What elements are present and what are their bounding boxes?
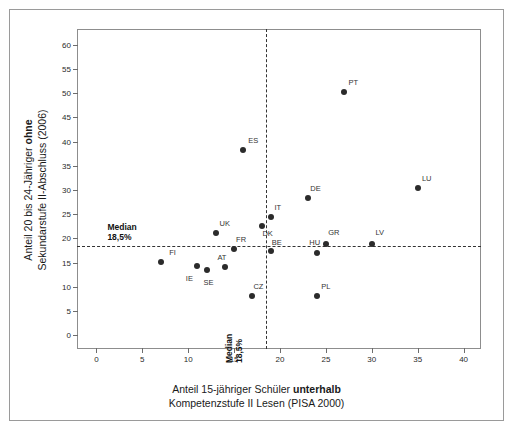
y-axis-tick bbox=[73, 93, 78, 94]
data-point[interactable] bbox=[231, 246, 237, 252]
y-axis-tick bbox=[73, 142, 78, 143]
x-axis-tick-label: 40 bbox=[459, 355, 468, 364]
y-axis-tick-label: 55 bbox=[62, 64, 71, 73]
data-point[interactable] bbox=[305, 195, 311, 201]
data-point-label: IE bbox=[186, 274, 193, 283]
y-axis-tick bbox=[73, 45, 78, 46]
median-label-h-line1: Median bbox=[107, 222, 136, 232]
y-axis-tick bbox=[73, 190, 78, 191]
data-point[interactable] bbox=[314, 293, 320, 299]
x-axis-title-line1-emphasis: unterhalb bbox=[293, 383, 341, 395]
median-label-vertical: Median18,5% bbox=[224, 333, 244, 362]
x-axis-tick bbox=[418, 348, 419, 353]
x-axis-tick-label: 30 bbox=[367, 355, 376, 364]
y-axis-tick bbox=[73, 166, 78, 167]
y-axis-tick-label: 45 bbox=[62, 113, 71, 122]
data-point-label: LU bbox=[422, 174, 432, 183]
x-axis-tick bbox=[464, 348, 465, 353]
data-point-label: DE bbox=[310, 184, 320, 193]
y-axis-tick bbox=[73, 335, 78, 336]
median-label-h-line2: 18,5% bbox=[107, 232, 131, 242]
y-axis-tick-label: 0 bbox=[67, 331, 71, 340]
data-point[interactable] bbox=[222, 264, 228, 270]
data-point[interactable] bbox=[415, 185, 421, 191]
y-axis-title-line2: Sekundarstufe II-Abschluss (2006) bbox=[36, 109, 48, 270]
x-axis-tick-label: 20 bbox=[276, 355, 285, 364]
median-line-vertical bbox=[266, 29, 267, 349]
data-point[interactable] bbox=[268, 248, 274, 254]
x-axis-title-line1: Anteil 15-jähriger Schüler unterhalb bbox=[172, 383, 341, 395]
data-point[interactable] bbox=[194, 263, 200, 269]
data-point[interactable] bbox=[204, 267, 210, 273]
data-point-label: FR bbox=[236, 235, 246, 244]
y-axis-tick-label: 10 bbox=[62, 282, 71, 291]
data-point-label: LV bbox=[376, 228, 385, 237]
data-point[interactable] bbox=[369, 241, 375, 247]
y-axis-tick-label: 50 bbox=[62, 89, 71, 98]
y-axis-tick bbox=[73, 214, 78, 215]
y-axis-tick-label: 30 bbox=[62, 186, 71, 195]
data-point-label: PL bbox=[321, 282, 330, 291]
data-point[interactable] bbox=[341, 89, 347, 95]
y-axis-tick-label: 20 bbox=[62, 234, 71, 243]
x-axis-tick bbox=[96, 348, 97, 353]
x-axis-title: Anteil 15-jähriger Schüler unterhalb Kom… bbox=[10, 382, 503, 410]
data-point-label: IT bbox=[274, 203, 281, 212]
data-point[interactable] bbox=[268, 214, 274, 220]
data-point-label: GR bbox=[328, 228, 339, 237]
y-axis-tick bbox=[73, 117, 78, 118]
data-point-label: PT bbox=[348, 78, 358, 87]
y-axis-tick bbox=[73, 263, 78, 264]
figure-frame: Anteil 20 bis 24-Jähriger ohne Sekundars… bbox=[9, 9, 504, 421]
y-axis-title-line1-emphasis: ohne bbox=[22, 119, 34, 144]
y-axis-title-line1-text: Anteil 20 bis 24-Jähriger bbox=[22, 144, 34, 260]
data-point-label: UK bbox=[220, 219, 230, 228]
y-axis-tick bbox=[73, 311, 78, 312]
plot-inner: 0510152025303540455055600510152025303540… bbox=[78, 30, 480, 348]
data-point[interactable] bbox=[158, 259, 164, 265]
x-axis-tick-label: 25 bbox=[321, 355, 330, 364]
x-axis-title-line1-text: Anteil 15-jähriger Schüler bbox=[172, 383, 293, 395]
x-axis-tick bbox=[280, 348, 281, 353]
median-label-horizontal: Median18,5% bbox=[107, 222, 136, 242]
data-point-label: SE bbox=[204, 278, 214, 287]
data-point-label: FI bbox=[169, 248, 176, 257]
data-point-label: CZ bbox=[253, 282, 263, 291]
data-point-label: ES bbox=[248, 136, 258, 145]
x-axis-tick bbox=[326, 348, 327, 353]
y-axis-tick bbox=[73, 238, 78, 239]
y-axis-tick bbox=[73, 287, 78, 288]
x-axis-tick-label: 35 bbox=[413, 355, 422, 364]
x-axis-title-line2: Kompetenzstufe II Lesen (PISA 2000) bbox=[169, 397, 345, 409]
y-axis-tick bbox=[73, 69, 78, 70]
data-point-label: HU bbox=[309, 238, 320, 247]
y-axis-tick-label: 15 bbox=[62, 258, 71, 267]
y-axis-tick-label: 40 bbox=[62, 137, 71, 146]
y-axis-title-line1: Anteil 20 bis 24-Jähriger ohne bbox=[22, 119, 34, 260]
y-axis-tick-label: 35 bbox=[62, 161, 71, 170]
x-axis-tick-label: 0 bbox=[94, 355, 98, 364]
y-axis-tick-label: 25 bbox=[62, 210, 71, 219]
x-axis-tick bbox=[188, 348, 189, 353]
data-point[interactable] bbox=[249, 293, 255, 299]
data-point-label: AT bbox=[217, 253, 226, 262]
data-point[interactable] bbox=[213, 230, 219, 236]
x-axis-tick-label: 10 bbox=[184, 355, 193, 364]
x-axis-tick bbox=[372, 348, 373, 353]
median-label-v-line2: 18,5% bbox=[234, 339, 244, 363]
y-axis-title: Anteil 20 bis 24-Jähriger ohne Sekundars… bbox=[14, 10, 56, 370]
y-axis-tick-label: 60 bbox=[62, 40, 71, 49]
x-axis-tick-label: 5 bbox=[140, 355, 144, 364]
data-point[interactable] bbox=[314, 250, 320, 256]
x-axis-tick bbox=[142, 348, 143, 353]
y-axis-tick-label: 5 bbox=[67, 307, 71, 316]
data-point-label: BE bbox=[272, 238, 282, 247]
plot-area: 0510152025303540455055600510152025303540… bbox=[77, 29, 481, 349]
data-point[interactable] bbox=[240, 147, 246, 153]
median-label-v-line1: Median bbox=[224, 333, 234, 362]
